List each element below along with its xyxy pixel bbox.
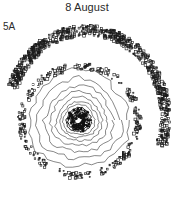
contour-plot (0, 0, 174, 219)
spiral-rainband (8, 25, 171, 180)
